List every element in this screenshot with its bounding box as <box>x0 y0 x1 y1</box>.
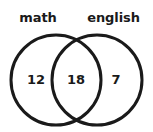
region-count-english-only: 7 <box>102 73 130 86</box>
region-count-math-only: 12 <box>22 73 50 86</box>
venn-diagram: math english 12 18 7 <box>0 0 153 132</box>
venn-circles-graphic <box>0 0 153 132</box>
region-count-intersection: 18 <box>62 73 90 86</box>
